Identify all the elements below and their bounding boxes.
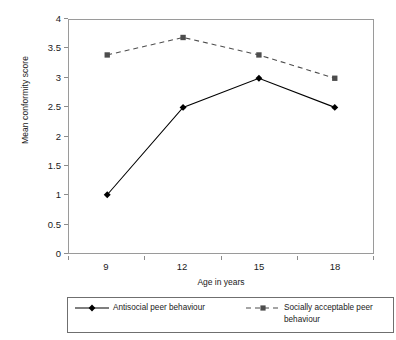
- line-chart: Mean conformity score 4 3.5 3 2.5 2 1.5 …: [0, 0, 396, 340]
- x-tick-mark-icon: [297, 256, 298, 260]
- y-tick-2.5: 2.5: [0, 101, 68, 113]
- legend-entry-socially-acceptable: Socially acceptable peer behaviour: [246, 302, 393, 325]
- series-layer: [69, 20, 373, 253]
- series-line: [107, 37, 335, 78]
- y-tick-label: 4: [56, 13, 68, 25]
- legend-label: Antisocial peer behaviour: [113, 302, 205, 314]
- y-tick-1.5: 1.5: [0, 160, 68, 172]
- y-tick-label: 2: [56, 131, 68, 143]
- x-tick-mark-icon: [144, 256, 145, 260]
- data-point-square-icon: [180, 35, 185, 40]
- x-tick-mark-icon: [221, 256, 222, 260]
- y-tick-label: 3: [56, 72, 68, 84]
- legend-swatch-dashed-square-icon: [246, 302, 280, 314]
- legend-entry-antisocial: Antisocial peer behaviour: [75, 302, 205, 314]
- y-tick-label: 0.5: [48, 219, 68, 231]
- x-tick-label-18: 18: [315, 261, 355, 272]
- chart-legend: Antisocial peer behaviour Socially accep…: [67, 297, 394, 333]
- x-axis-ticks: 9 12 15 18: [68, 256, 374, 274]
- y-tick-0.5: 0.5: [0, 219, 68, 231]
- data-point-square-icon: [105, 52, 110, 57]
- legend-swatch-solid-diamond-icon: [75, 302, 109, 314]
- y-tick-2: 2: [0, 131, 68, 143]
- data-point-diamond-icon: [255, 75, 262, 82]
- y-tick-4: 4: [0, 13, 68, 25]
- y-tick-label: 0: [56, 248, 68, 260]
- x-tick-label-9: 9: [86, 261, 126, 272]
- legend-label: Socially acceptable peer behaviour: [284, 302, 393, 325]
- y-tick-label: 1.5: [48, 160, 68, 172]
- x-tick-mark-icon: [68, 256, 69, 260]
- y-tick-3.5: 3.5: [0, 42, 68, 54]
- series-2: [105, 35, 338, 81]
- data-point-diamond-icon: [331, 104, 338, 111]
- y-tick-label: 3.5: [48, 42, 68, 54]
- y-tick-label: 1: [56, 189, 68, 201]
- x-tick-label-12: 12: [162, 261, 202, 272]
- data-point-square-icon: [332, 76, 337, 81]
- x-tick-label-15: 15: [239, 261, 279, 272]
- y-axis-ticks: 4 3.5 3 2.5 2 1.5 1 0.5: [0, 19, 68, 254]
- y-tick-0: 0: [0, 248, 68, 260]
- x-axis-title: Age in years: [68, 277, 374, 287]
- y-tick-label: 2.5: [48, 101, 68, 113]
- y-tick-1: 1: [0, 189, 68, 201]
- series-1: [104, 75, 338, 198]
- series-line: [107, 78, 335, 195]
- y-tick-3: 3: [0, 72, 68, 84]
- x-tick-mark-icon: [373, 256, 374, 260]
- plot-area: [68, 19, 374, 254]
- data-point-square-icon: [256, 52, 261, 57]
